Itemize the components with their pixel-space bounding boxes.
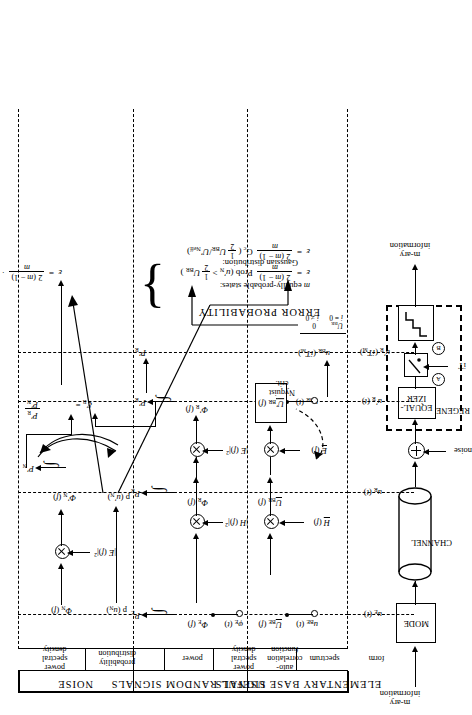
equation-noise-epsilon: ε = 2 (m − 1) m · f [ξ′R, p (u′N)] <box>0 262 62 281</box>
column-title-form: form <box>360 653 394 662</box>
output-line <box>415 269 416 307</box>
psd-mult-H-in-line <box>207 522 223 523</box>
matrix-left-border <box>18 691 348 693</box>
noise-input-head <box>423 449 429 455</box>
psd-mult-in-line-H <box>196 537 197 603</box>
noise-mult-in-line <box>61 567 62 605</box>
col-divider-psd-power <box>164 649 165 671</box>
label-E-f-squared-noise: |E (f)|2 <box>94 548 116 557</box>
mult-in-head-H <box>267 533 273 539</box>
tap-line-uR <box>348 492 414 493</box>
sampler-point-b: B <box>432 342 445 355</box>
label-Phi-E-f: ΦE (f) <box>188 619 208 629</box>
label-u-BE-t: uBE (t) <box>296 619 318 629</box>
input-arrow-line <box>415 651 416 687</box>
input-arrow-head <box>412 646 418 652</box>
sampler-point-a-label: A <box>436 376 441 383</box>
output-head <box>412 264 418 270</box>
sampler-point-b-label: B <box>436 345 440 352</box>
sampler-to-decision-head <box>412 342 418 348</box>
label-Phi-R-f: ΦR (f) <box>187 497 208 507</box>
grid-top-dash <box>18 109 19 649</box>
grid-bottom-dash <box>347 109 348 649</box>
noise-input-line <box>428 451 446 452</box>
noise-mult-out-line <box>61 514 62 546</box>
arrow-puN-line <box>116 511 117 603</box>
connector-phiE <box>214 614 238 615</box>
clock-input-line <box>428 366 448 367</box>
mult-H-input-line <box>284 522 304 523</box>
column-title-psd-noise: power spectral density <box>25 644 85 672</box>
label-P-E: PE <box>131 610 140 620</box>
clock-input-head <box>423 364 429 370</box>
tap-line-uRp <box>348 401 414 402</box>
xi-feed-top-line <box>26 434 27 468</box>
terminal-filled-UBE <box>285 613 289 617</box>
arrow-puN-head <box>113 506 119 512</box>
block-equalizer-label: EQUAL- IZER <box>401 394 433 411</box>
modem-to-channel-head <box>412 581 418 587</box>
case-cond-i0: i = 0 <box>329 314 343 321</box>
case-value-zero: 0 <box>312 322 316 329</box>
label-output-m-ary: m-ary information <box>380 242 440 259</box>
arrow-uBR-sample-head <box>324 360 330 366</box>
section-title-noise: NOISE <box>40 679 110 690</box>
mult-in-line-H <box>270 537 271 575</box>
block-modem-label: MODE <box>403 619 428 628</box>
psd-mult-in-head-H <box>193 533 199 539</box>
block-channel-label: CHANNEL <box>411 538 452 547</box>
xi-fraction: P′R P′N <box>25 399 40 419</box>
terminal-filled-PhiE <box>211 613 215 617</box>
column-title-spectrum: spectrum <box>300 653 350 662</box>
noise-mult-in-head <box>58 563 64 569</box>
label-m-equally-probable-states: m equally-probable states: <box>220 281 310 290</box>
label-error-probability: ERROR PROBABILITY <box>198 307 320 318</box>
label-phi-E-t: φE (t) <box>224 619 243 629</box>
decision-staircase-glyph <box>398 307 432 341</box>
power-head-PE <box>141 612 147 618</box>
matrix-top-border <box>18 671 20 693</box>
channel-to-adder-head <box>412 461 418 467</box>
label-Phi-N-prime-f: Φ′N (f) <box>53 492 76 502</box>
power-line-PE <box>146 614 174 615</box>
mult-H-input-head <box>279 520 285 526</box>
label-H-f: H (f) <box>314 518 331 527</box>
block-modem: MODE <box>396 603 436 643</box>
tap-line-uE <box>348 614 414 615</box>
label-p-uN-prime: p (u′N) <box>108 492 130 502</box>
block-channel-shape <box>393 481 437 581</box>
multiplier-H <box>264 514 279 529</box>
label-input-m-ary: m-ary information <box>370 690 430 707</box>
label-clock: iṪ <box>458 361 466 370</box>
arrow-uBR-sample-line <box>327 365 328 397</box>
block-equalizer: EQUAL- IZER <box>398 387 436 419</box>
column-title-power: power <box>173 653 213 662</box>
tap-line-uRpi <box>348 352 414 353</box>
label-Phi-N-f: ΦN (f) <box>51 605 72 615</box>
noise-mult-out-head <box>58 509 64 515</box>
label-gaussian-distribution: Gaussian distribution: <box>222 258 298 267</box>
integral-PE: ∫ <box>150 609 166 613</box>
label-noise-input: noise <box>454 446 472 455</box>
label-U-BE-f: UBE (f) <box>258 619 282 629</box>
label-p-uN: p (uN) <box>106 605 127 615</box>
equalizer-to-sampler-line <box>415 377 416 389</box>
label-H-f-squared: |H (f)|2 <box>225 518 248 527</box>
label-U-BR-f: UBR (f) <box>258 497 282 507</box>
col-divider-prob-psd <box>85 649 86 671</box>
error-probability-brace: } <box>140 264 165 311</box>
column-title-probability: probability distribution <box>90 649 144 667</box>
sampler-point-a: A <box>432 373 445 386</box>
psd-mult-H-in-head <box>202 520 208 526</box>
connector-uBE <box>288 614 313 615</box>
noise-mult-in-vline <box>72 552 90 553</box>
section-title-elementary: ELEMENTARY BASE SIGNALS <box>219 679 381 690</box>
link-puN-to-epsilon <box>45 263 105 493</box>
noise-mult-in-vhead <box>67 550 73 556</box>
